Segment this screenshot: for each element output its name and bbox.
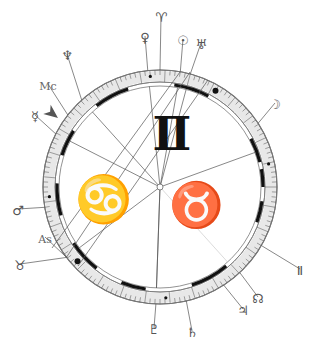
- gemini-cusp-icon: Ⅱ: [297, 263, 303, 278]
- cancer-sign-icon: ♋: [75, 172, 132, 226]
- ascendant-icon: As: [37, 233, 52, 246]
- ring-dot: [267, 162, 270, 165]
- ring-dot: [149, 75, 152, 78]
- mc-arrow-head: [43, 105, 61, 123]
- pluto-icon: ♇: [148, 322, 160, 337]
- sun-icon: ☉: [177, 33, 189, 48]
- mc-arrow-icon: [43, 105, 61, 123]
- thick-arc: [261, 169, 263, 187]
- big-sign-glyphs: Ⅱ♋♉: [75, 107, 224, 230]
- venus-icon: ♀: [140, 30, 150, 45]
- ring-dot: [213, 88, 219, 94]
- saturn-icon: ♄: [186, 325, 198, 340]
- aries-cusp-icon: ♈: [155, 10, 167, 25]
- neptune-icon: ♆: [61, 48, 73, 63]
- taurus-cusp-leader-line: [20, 257, 67, 264]
- moon-icon: ☽: [269, 97, 281, 112]
- house-cusp-line: [156, 187, 160, 288]
- mars-icon: ♂: [12, 203, 24, 218]
- midheaven-icon: Mc: [39, 80, 56, 93]
- mercury-icon: ☿: [31, 109, 39, 124]
- uranus-icon: ♅: [195, 37, 207, 52]
- taurus-sign-icon: ♉: [169, 179, 224, 230]
- taurus-cusp-icon: ♉: [14, 258, 26, 273]
- center-hub: [157, 184, 163, 190]
- astrology-chart: Ⅱ♋♉ ♈♀☉♅♆Mc☿☽♂As♉♇♄♃☊Ⅱ: [0, 0, 322, 354]
- ring-dot: [164, 296, 167, 299]
- ring-dot: [48, 195, 51, 198]
- gemini-cusp-leader-line: [261, 246, 300, 270]
- gemini-sign-icon: Ⅱ: [153, 107, 192, 161]
- node-icon: ☊: [252, 291, 264, 306]
- jupiter-icon: ♃: [237, 303, 249, 318]
